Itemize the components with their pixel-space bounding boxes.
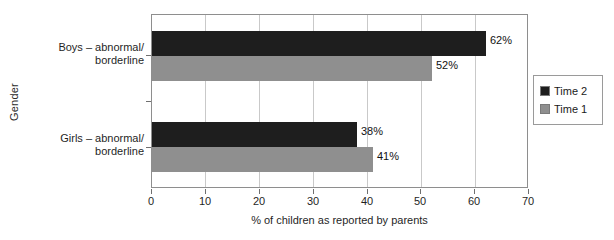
x-tick-label-70: 70 bbox=[513, 195, 543, 207]
bar-value-boys-time2: 62% bbox=[490, 34, 512, 46]
category-label-boys: Boys – abnormal/ borderline bbox=[14, 41, 144, 67]
x-tick-label-10: 10 bbox=[190, 195, 220, 207]
x-tick-label-20: 20 bbox=[244, 195, 274, 207]
legend-label-time2: Time 2 bbox=[554, 85, 587, 97]
x-tick-label-50: 50 bbox=[405, 195, 435, 207]
category-label-line2: borderline bbox=[14, 54, 144, 67]
bar-value-girls-time2: 38% bbox=[361, 125, 383, 137]
bar-boys-time2[interactable] bbox=[152, 31, 486, 56]
category-label-line2: borderline bbox=[14, 145, 144, 158]
category-label-line1: Girls – abnormal/ bbox=[60, 132, 144, 144]
x-axis-tick bbox=[528, 189, 529, 194]
x-tick-label-60: 60 bbox=[459, 195, 489, 207]
plot-area bbox=[151, 14, 528, 188]
x-axis-title: % of children as reported by parents bbox=[151, 214, 528, 226]
legend-item-time1[interactable]: Time 1 bbox=[540, 100, 596, 118]
x-tick-label-30: 30 bbox=[298, 195, 328, 207]
bar-girls-time1[interactable] bbox=[152, 147, 373, 172]
x-axis-tick bbox=[420, 189, 421, 194]
x-axis-tick bbox=[474, 189, 475, 194]
chart-legend: Time 2 Time 1 bbox=[533, 75, 603, 125]
legend-item-time2[interactable]: Time 2 bbox=[540, 82, 596, 100]
x-axis-tick bbox=[151, 189, 152, 194]
x-axis-tick bbox=[313, 189, 314, 194]
x-tick-label-0: 0 bbox=[136, 195, 166, 207]
legend-swatch-time1-icon bbox=[540, 104, 550, 114]
bar-girls-time2[interactable] bbox=[152, 122, 357, 147]
category-label-line1: Boys – abnormal/ bbox=[58, 41, 144, 53]
bar-chart: Gender Boys – abnormal/ borderline Girls… bbox=[0, 0, 614, 240]
x-tick-label-40: 40 bbox=[352, 195, 382, 207]
bar-boys-time1[interactable] bbox=[152, 56, 432, 81]
x-axis-tick bbox=[205, 189, 206, 194]
bar-value-girls-time1: 41% bbox=[377, 150, 399, 162]
category-label-girls: Girls – abnormal/ borderline bbox=[14, 132, 144, 158]
legend-swatch-time2-icon bbox=[540, 86, 550, 96]
legend-label-time1: Time 1 bbox=[554, 103, 587, 115]
y-axis-title: Gender bbox=[8, 72, 20, 132]
x-axis-tick bbox=[259, 189, 260, 194]
bar-value-boys-time1: 52% bbox=[436, 59, 458, 71]
x-axis-tick bbox=[367, 189, 368, 194]
